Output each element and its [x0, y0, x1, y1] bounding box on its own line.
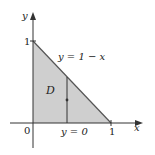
- x-axis-label: x: [134, 122, 140, 133]
- y-axis-arrow-icon: [30, 12, 36, 20]
- strip-midpoint-dot: [66, 99, 69, 102]
- y-tick-label-1: 1: [24, 36, 30, 47]
- bottom-boundary-label: y = 0: [60, 126, 88, 137]
- x-tick-label-1: 1: [109, 126, 115, 137]
- x-tick-label-0: 0: [24, 125, 30, 136]
- region-label-d: D: [45, 84, 55, 97]
- y-axis-label: y: [21, 10, 28, 21]
- top-boundary-label: y = 1 − x: [57, 51, 105, 62]
- region-diagram: y 1 y = 1 − x D 0 y = 0 1 x: [0, 0, 155, 155]
